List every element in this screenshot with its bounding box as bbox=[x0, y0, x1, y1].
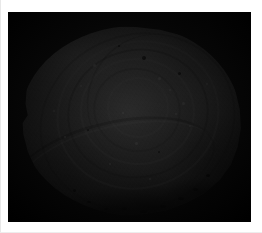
whorl-ring-3 bbox=[73, 51, 202, 173]
specimen-crust-speck bbox=[160, 205, 166, 208]
specimen-specular-fleck bbox=[135, 142, 138, 145]
specimen-pit bbox=[118, 45, 120, 47]
specimen-rim-crust bbox=[20, 26, 242, 216]
specimen-cleft-primary bbox=[20, 99, 225, 216]
whorl-ring-5 bbox=[105, 75, 171, 140]
whorl-ring-1 bbox=[38, 26, 236, 209]
specimen-cleft-secondary bbox=[63, 26, 242, 193]
specimen-specular-fleck bbox=[122, 112, 124, 114]
specimen-whorl-rings bbox=[20, 26, 242, 216]
specimen-specular-fleck bbox=[149, 178, 151, 180]
specimen-specular-fleck bbox=[206, 83, 208, 85]
specimen-object bbox=[20, 26, 242, 216]
specimen-pit bbox=[158, 151, 160, 153]
specimen-crust-speck bbox=[104, 208, 108, 210]
specimen-crust-speck bbox=[178, 197, 184, 200]
specimen-specular-fleck bbox=[109, 163, 111, 165]
photo-frame bbox=[8, 12, 251, 222]
specimen-crust-speck bbox=[87, 201, 91, 203]
specimen-surface-texture bbox=[20, 26, 242, 216]
specimen-specular-fleck bbox=[53, 110, 55, 112]
specimen-specular-fleck bbox=[189, 125, 191, 127]
page-edge-bottom bbox=[0, 232, 262, 233]
specimen-specular-fleck bbox=[93, 64, 96, 67]
specimen-pit bbox=[142, 56, 146, 60]
specimen-crust-speck bbox=[122, 207, 127, 210]
specimen-body bbox=[20, 26, 242, 216]
specimen-specular-fleck bbox=[169, 89, 171, 91]
page-canvas bbox=[0, 0, 262, 233]
specimen-pit bbox=[178, 72, 181, 75]
specimen-specular-fleck bbox=[80, 85, 82, 87]
whorl-ring-outer bbox=[20, 26, 242, 216]
page-edge-left bbox=[0, 0, 1, 233]
specimen-specular-fleck bbox=[182, 102, 185, 105]
specimen-specular-fleck bbox=[175, 113, 177, 115]
specimen-crust-speck bbox=[206, 174, 210, 177]
specimen-pit bbox=[87, 129, 89, 131]
specimen-crust-speck bbox=[140, 210, 147, 213]
specimen-pit bbox=[73, 189, 76, 192]
specimen-crust-speck bbox=[193, 188, 198, 191]
whorl-ring-2 bbox=[55, 35, 220, 191]
specimen-crust-speck bbox=[167, 212, 171, 214]
whorl-ring-4 bbox=[82, 55, 194, 164]
specimen-specular-fleck bbox=[64, 136, 66, 138]
specimen-specular-fleck bbox=[158, 77, 161, 80]
specimen-cleft-highlight bbox=[20, 103, 227, 216]
